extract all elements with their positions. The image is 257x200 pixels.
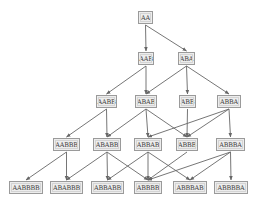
node-aab: AAB [138,52,154,65]
node-abbb: ABBB [176,138,198,151]
edge-abab-to-ababb [107,109,146,137]
edge-aba-to-abb [187,66,188,94]
node-abbbba: ABBBBA [214,181,248,194]
node-aba: ABA [178,52,195,65]
node-aabbb: AABBB [53,138,80,151]
edge-ababb-to-ababbb [67,152,108,180]
edge-aa-to-aab [146,25,147,51]
node-abbbb: ABBBB [134,181,162,194]
node-abbabb: ABBABB [91,181,124,194]
node-aa: AA [138,11,153,24]
edge-abab-to-abbab [146,109,148,137]
node-aabbbb: AABBBB [9,181,43,194]
edge-abbba-to-abbbb [148,152,231,180]
edge-aa-to-aba [146,25,187,51]
node-abb: ABB [179,95,196,108]
edge-aba-to-abab [146,66,187,94]
node-abbba: ABBBA [216,138,245,151]
edge-aabb-to-ababb [107,109,108,137]
edge-aba-to-abba [187,66,230,94]
node-ababb: ABABB [93,138,121,151]
edge-abbba-to-abbbba [231,152,232,180]
edge-aabbb-to-aabbbb [26,152,67,180]
edge-abba-to-abbab [148,109,229,137]
node-abba: ABBA [217,95,241,108]
edge-abba-to-abbba [229,109,231,137]
edge-ababb-to-abbabb [107,152,108,180]
node-aabb: AABB [96,95,117,108]
derivation-graph: AAAABABAAABBABABABBABBAAABBBABABBABBABAB… [0,0,257,200]
edge-aabb-to-aabbb [67,109,107,137]
edge-aab-to-aabb [107,66,147,94]
node-abab: ABAB [135,95,157,108]
edge-abbba-to-abbbab [190,152,231,180]
node-abbab: ABBAB [134,138,162,151]
node-abbbab: ABBBAB [173,181,207,194]
edge-abba-to-abbb [187,109,229,137]
edge-abab-to-abbb [146,109,187,137]
node-ababbb: ABABBB [50,181,83,194]
